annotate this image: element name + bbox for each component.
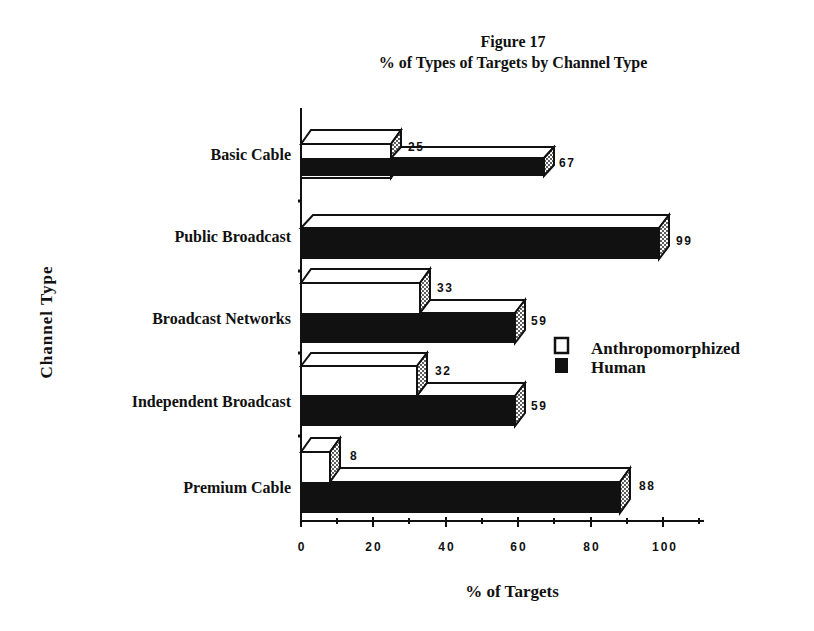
value-label: 67 bbox=[559, 156, 575, 170]
value-label: 33 bbox=[437, 281, 453, 295]
value-label: 59 bbox=[531, 314, 547, 328]
category-label-broadcast-networks: Broadcast Networks bbox=[152, 310, 291, 327]
category-labels: Basic Cable Public Broadcast Broadcast N… bbox=[132, 146, 292, 496]
x-tick-label: 20 bbox=[365, 540, 382, 554]
value-label: 8 bbox=[350, 449, 358, 463]
chart-canvas: Figure 17 % of Types of Targets by Chann… bbox=[0, 0, 814, 631]
x-tick-label: 60 bbox=[510, 540, 527, 554]
chart-subtitle: % of Types of Targets by Channel Type bbox=[379, 54, 648, 72]
bar-human bbox=[301, 468, 630, 513]
legend-label-human: Human bbox=[591, 358, 646, 377]
y-axis-label: Channel Type bbox=[37, 266, 56, 379]
x-tick-labels: 0 20 40 60 80 100 bbox=[298, 540, 678, 554]
value-label: 32 bbox=[435, 364, 451, 378]
value-label: 59 bbox=[531, 399, 547, 413]
x-tick-label: 40 bbox=[438, 540, 455, 554]
value-label: 25 bbox=[408, 140, 424, 154]
chart-title: Figure 17 bbox=[480, 33, 545, 51]
value-label: 88 bbox=[639, 479, 655, 493]
x-tick-label: 80 bbox=[583, 540, 600, 554]
bar-group-public-broadcast: 99 bbox=[301, 215, 692, 259]
bar-group-independent-broadcast: 32 59 bbox=[301, 353, 547, 426]
category-label-premium-cable: Premium Cable bbox=[183, 479, 291, 496]
bar-human bbox=[301, 215, 669, 259]
x-axis-label: % of Targets bbox=[465, 582, 559, 601]
legend-swatch-human bbox=[555, 358, 568, 373]
bar-group-broadcast-networks: 33 59 bbox=[301, 269, 547, 343]
legend: Anthropomorphized Human bbox=[555, 338, 740, 377]
bar-group-basic-cable: 25 67 bbox=[301, 130, 575, 178]
category-label-public-broadcast: Public Broadcast bbox=[174, 228, 291, 245]
category-label-basic-cable: Basic Cable bbox=[211, 146, 291, 163]
bar-group-premium-cable: 8 88 bbox=[301, 438, 655, 513]
legend-label-anthropomorphized: Anthropomorphized bbox=[591, 339, 740, 358]
x-tick-label: 100 bbox=[652, 540, 678, 554]
legend-swatch-anthropomorphized bbox=[555, 338, 568, 353]
bar-anthropomorphized bbox=[301, 269, 430, 314]
bar-anthropomorphized bbox=[301, 353, 427, 396]
x-tick-label: 0 bbox=[298, 540, 307, 554]
category-label-independent-broadcast: Independent Broadcast bbox=[132, 393, 292, 411]
value-label: 99 bbox=[676, 234, 692, 248]
